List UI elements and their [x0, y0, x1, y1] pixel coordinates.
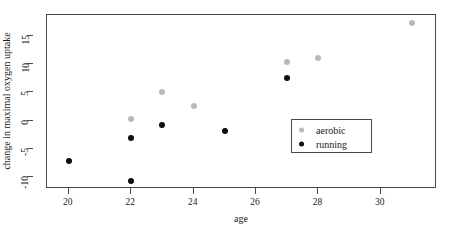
x-tick-label: 22 — [125, 197, 135, 208]
data-point-running — [66, 158, 72, 164]
plot-frame — [46, 14, 436, 188]
legend-label-running: running — [316, 138, 347, 149]
x-tick-label: 20 — [63, 197, 73, 208]
legend-entry-running: running — [292, 136, 371, 151]
data-point-aerobic — [159, 89, 165, 95]
data-area — [47, 15, 435, 187]
data-point-running — [222, 128, 228, 134]
y-tick-label: 5 — [21, 91, 31, 96]
legend-marker-icon-aerobic — [299, 127, 304, 132]
y-tick-label: -5 — [21, 148, 31, 156]
data-point-aerobic — [409, 20, 415, 26]
legend-marker-icon-running — [299, 141, 304, 146]
x-tick — [317, 188, 318, 194]
data-point-aerobic — [128, 116, 134, 122]
y-tick-label: 0 — [21, 120, 31, 125]
x-tick-label: 28 — [313, 197, 323, 208]
y-tick-label: -10 — [21, 176, 31, 189]
x-axis-title: age — [234, 213, 248, 224]
data-point-running — [128, 178, 134, 184]
x-tick — [130, 188, 131, 194]
data-point-aerobic — [315, 55, 321, 61]
legend-entry-aerobic: aerobic — [292, 122, 371, 137]
x-tick-label: 30 — [375, 197, 385, 208]
y-tick-label: 15 — [21, 35, 31, 45]
x-tick — [68, 188, 69, 194]
data-point-running — [128, 135, 134, 141]
legend: aerobic running — [291, 119, 372, 153]
scatter-plot-figure: change in maximal oxygen uptake -10-5051… — [0, 0, 449, 239]
y-tick-label: 10 — [21, 63, 31, 73]
x-tick-label: 24 — [188, 197, 198, 208]
x-axis: 202224262830 age — [0, 188, 449, 239]
x-tick — [380, 188, 381, 194]
legend-label-aerobic: aerobic — [316, 124, 345, 135]
x-tick-label: 26 — [250, 197, 260, 208]
data-point-running — [159, 122, 165, 128]
x-tick — [193, 188, 194, 194]
data-point-running — [284, 75, 290, 81]
y-axis-title: change in maximal oxygen uptake — [2, 32, 12, 169]
data-point-aerobic — [284, 59, 290, 65]
data-point-aerobic — [191, 103, 197, 109]
x-tick — [255, 188, 256, 194]
